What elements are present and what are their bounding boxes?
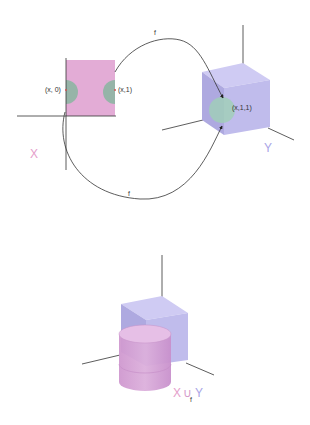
point-image-label: (x,1,1)	[232, 104, 252, 112]
point-right-dot	[114, 89, 116, 91]
y-axis-right	[268, 128, 294, 140]
codomain-label-y: Y	[264, 141, 272, 155]
cyl-label-sub: f	[190, 396, 192, 403]
cyl-axis-right	[186, 363, 214, 375]
point-right-label: (x,1)	[118, 86, 132, 94]
cylinder-label: X ∪ f Y	[173, 386, 203, 403]
codomain-cube-group: (x,1,1) Y	[162, 25, 294, 155]
map-arrow-bottom	[63, 112, 222, 199]
cyl-label-x: X	[173, 386, 181, 400]
map-label-top: f	[154, 29, 156, 36]
cylinder-top	[119, 325, 171, 343]
y-axis-left	[162, 120, 203, 130]
point-left-dot	[65, 89, 67, 91]
map-label-bottom: f	[128, 190, 130, 197]
cyl-axis-left	[82, 355, 120, 364]
domain-square-group: (x, 0) (x,1) X	[17, 58, 132, 170]
mapping-diagram: (x, 0) (x,1) X (x,1,1) Y f f X ∪ f Y	[0, 0, 310, 425]
domain-label-x: X	[30, 147, 38, 161]
mapping-cylinder-group	[82, 255, 214, 391]
point-left-label: (x, 0)	[45, 86, 61, 94]
cyl-label-y: Y	[195, 386, 203, 400]
